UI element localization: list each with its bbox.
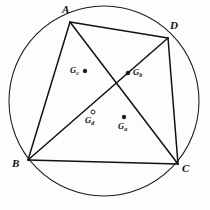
vertex-label-B: B (12, 158, 19, 169)
segment-BD (28, 38, 168, 160)
geometry-canvas (0, 0, 210, 210)
point-marker-Gb (126, 71, 130, 75)
point-marker-Ga (122, 115, 126, 119)
interior-label-Gb-subscript: b (139, 72, 142, 78)
point-marker-Gd (91, 110, 95, 114)
circumcircle (9, 6, 199, 196)
segment-AD (70, 22, 168, 38)
vertex-label-C: C (182, 163, 189, 174)
vertex-label-D: D (170, 20, 178, 31)
interior-label-Ga-subscript: a (124, 126, 127, 132)
interior-label-Gd-subscript: d (91, 120, 94, 126)
interior-label-Gc-subscript: c (76, 70, 79, 76)
interior-label-Ga: Ga (118, 122, 127, 131)
geometry-figure: A D B C Gc Gb Gd Ga (0, 0, 210, 210)
interior-label-Gd: Gd (85, 116, 94, 125)
vertex-label-A: A (62, 4, 69, 15)
quadrilateral-diagonals (28, 22, 178, 164)
segment-BC (28, 160, 178, 164)
quadrilateral-sides (28, 22, 178, 164)
point-marker-Gc (83, 69, 87, 73)
interior-label-Gb: Gb (133, 68, 142, 77)
interior-label-Gc: Gc (70, 66, 79, 75)
segment-DC (168, 38, 178, 164)
segment-AB (28, 22, 70, 160)
